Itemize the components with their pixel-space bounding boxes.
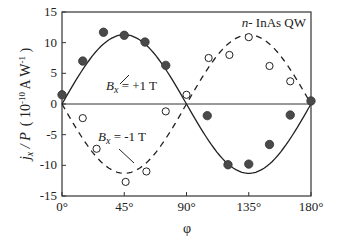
y-title-unit-exp: -10 <box>17 92 27 104</box>
series-minus-label-main: B <box>98 129 106 144</box>
chart: 0°45°90°135°180°-15-10-5051015 n- InAs Q… <box>0 0 342 242</box>
data-point-plus <box>99 28 107 36</box>
y-title-unit-exp2: -1 <box>17 56 27 64</box>
data-point-minus <box>226 51 233 58</box>
y-title-unit-open: ( 10 <box>18 104 34 126</box>
y-title-unit-mid: A W <box>18 63 33 92</box>
y-tick-label: 0 <box>51 96 58 111</box>
series-plus-label: Bx = +1 T <box>106 78 157 95</box>
y-axis-title: jx / P( 10-10 A W-1 ) <box>17 48 35 163</box>
x-tick-label: 180° <box>299 199 324 214</box>
data-point-minus <box>162 108 169 115</box>
series-plus-label-rest: = +1 T <box>118 78 157 93</box>
data-point-plus <box>265 140 273 148</box>
data-point-minus <box>79 115 86 122</box>
data-point-plus <box>224 161 232 169</box>
series-plus-label-main: B <box>106 78 114 93</box>
sample-label: n- InAs QW <box>242 15 307 30</box>
y-title-unit-close: ) <box>18 48 34 57</box>
series-minus-pointer <box>119 149 134 163</box>
y-tick-label: -10 <box>40 157 57 172</box>
y-tick-label: 15 <box>44 4 57 19</box>
data-point-minus <box>93 145 100 152</box>
data-point-plus <box>141 38 149 46</box>
y-tick-label: -5 <box>46 127 57 142</box>
y-tick-label: 10 <box>44 35 57 50</box>
y-title-rest: / P <box>18 132 33 152</box>
y-tick-label: -15 <box>40 188 57 203</box>
data-point-minus <box>287 78 294 85</box>
data-point-plus <box>307 97 315 105</box>
data-point-plus <box>79 57 87 65</box>
data-point-plus <box>203 111 211 119</box>
x-axis-title: φ <box>183 221 191 236</box>
data-point-plus <box>162 61 170 69</box>
data-point-minus <box>143 168 150 175</box>
data-point-plus <box>245 160 253 168</box>
series-minus-label-rest: = -1 T <box>110 129 146 144</box>
x-tick-label: 0° <box>56 199 68 214</box>
data-point-plus <box>58 91 66 99</box>
data-point-minus <box>245 34 252 41</box>
y-tick-label: 5 <box>51 65 58 80</box>
data-point-minus <box>266 62 273 69</box>
sample-label-rest: - InAs QW <box>248 15 306 30</box>
data-point-minus <box>122 178 129 185</box>
series-minus-label: Bx = -1 T <box>98 129 146 146</box>
data-point-plus <box>286 111 294 119</box>
data-point-plus <box>120 31 128 39</box>
data-point-minus <box>183 91 190 98</box>
data-point-minus <box>205 54 212 61</box>
x-tick-label: 45° <box>115 199 133 214</box>
x-tick-label: 135° <box>236 199 261 214</box>
x-tick-label: 90° <box>177 199 195 214</box>
